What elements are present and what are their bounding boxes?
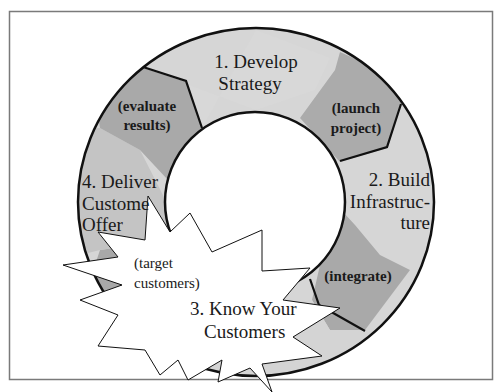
phase-2-title-line1: 2. Build — [369, 169, 431, 190]
transition-launch-line2: project) — [331, 120, 382, 137]
phase-4-title-line2: Custome — [82, 193, 150, 214]
transition-launch-line1: (launch — [332, 100, 381, 117]
transition-evaluate-line2: results) — [123, 117, 170, 134]
phase-4-title-line1: 4. Deliver — [82, 171, 159, 192]
phase-2-title-line2: Infrastruc- — [350, 191, 430, 212]
transition-integrate: (integrate) — [324, 268, 391, 285]
phase-3-title-line1: 3. Know Your — [190, 298, 297, 319]
diagram-canvas: 1. Develop Strategy 2. Build Infrastruc-… — [0, 0, 501, 392]
transition-evaluate-line1: (evaluate — [118, 98, 177, 115]
phase-1-title-line2: Strategy — [218, 73, 282, 94]
phase-4-title-line3: Offer — [82, 214, 123, 235]
transition-target-line1: (target — [134, 255, 174, 272]
transition-target-line2: customers) — [134, 275, 200, 292]
phase-2-title-line3: ture — [400, 212, 430, 233]
phase-1-title-line1: 1. Develop — [214, 51, 297, 72]
phase-3-title-line2: Customers — [204, 321, 285, 342]
